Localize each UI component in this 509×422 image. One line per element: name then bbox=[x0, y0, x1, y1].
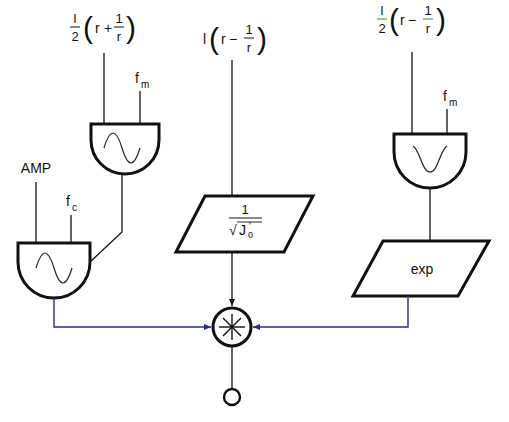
signal-line-left bbox=[54, 298, 211, 327]
svg-text:c: c bbox=[72, 202, 77, 213]
open-paren: ( bbox=[83, 11, 93, 44]
coef-denominator: 2 bbox=[378, 21, 385, 36]
open-paren: ( bbox=[209, 22, 219, 55]
lower-left-oscillator bbox=[18, 243, 90, 298]
var-r: r bbox=[221, 31, 226, 47]
signal-line-right bbox=[253, 296, 408, 327]
sqrt-symbol: √ bbox=[229, 222, 237, 238]
close-paren: ) bbox=[126, 11, 136, 44]
close-paren: ) bbox=[257, 22, 267, 55]
top-left-expression: l 2 ( r + 1 r ) bbox=[70, 11, 136, 44]
block-numerator: 1 bbox=[241, 202, 248, 217]
den-var: J bbox=[239, 222, 246, 238]
svg-text:f: f bbox=[443, 88, 447, 104]
operator: − bbox=[408, 12, 416, 28]
frac-denominator: r bbox=[247, 40, 252, 55]
upper-left-oscillator bbox=[91, 124, 159, 174]
block-diagram: l 2 ( r + 1 r ) f m AMP f c l ( bbox=[0, 0, 509, 422]
frac-denominator: r bbox=[117, 29, 122, 44]
svg-text:f: f bbox=[135, 70, 139, 86]
close-paren: ) bbox=[436, 3, 446, 36]
var-r: r bbox=[400, 12, 405, 28]
fm-right-label: f m bbox=[443, 88, 457, 108]
svg-text:m: m bbox=[449, 97, 457, 108]
middle-scaler-block: 1 √ J 0 ′ bbox=[176, 196, 313, 252]
var-r: r bbox=[95, 20, 100, 36]
frac-denominator: r bbox=[426, 21, 431, 36]
top-right-expression: l 2 ( r − 1 r ) bbox=[377, 3, 446, 36]
coef-numerator: l bbox=[74, 11, 77, 26]
exp-block: exp bbox=[353, 241, 489, 296]
coef-numerator: l bbox=[381, 3, 384, 18]
den-prime: ′ bbox=[249, 221, 251, 232]
coef: l bbox=[203, 31, 206, 47]
operator: + bbox=[104, 20, 112, 36]
frac-numerator: 1 bbox=[115, 11, 122, 26]
frac-numerator: 1 bbox=[424, 3, 431, 18]
multiplier-node bbox=[213, 308, 251, 346]
coef-denominator: 2 bbox=[71, 29, 78, 44]
frac-numerator: 1 bbox=[245, 22, 252, 37]
fc-label: f c bbox=[66, 193, 77, 213]
exp-label: exp bbox=[411, 261, 434, 277]
output-node bbox=[224, 389, 240, 405]
open-paren: ( bbox=[389, 3, 399, 36]
right-oscillator bbox=[394, 134, 466, 188]
svg-text:f: f bbox=[66, 193, 70, 209]
amp-label: AMP bbox=[21, 160, 51, 176]
svg-text:m: m bbox=[141, 79, 149, 90]
fm-left-label: f m bbox=[135, 70, 149, 90]
middle-expression: l ( r − 1 r ) bbox=[203, 22, 267, 55]
connector bbox=[90, 174, 122, 262]
operator: − bbox=[229, 31, 237, 47]
